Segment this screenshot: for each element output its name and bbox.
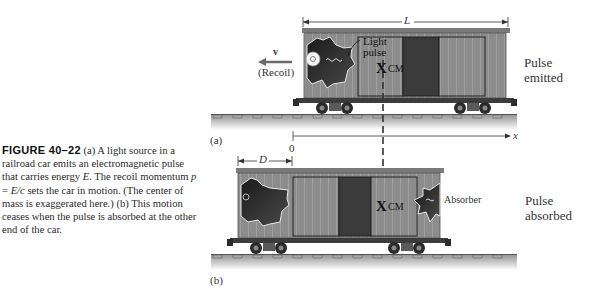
figure-caption: FIGURE 40–22 (a) A light source in a rai… (2, 144, 198, 236)
displacement-label: D (259, 153, 267, 165)
x-axis (293, 131, 511, 141)
cm-marker-b: X (376, 198, 387, 215)
wheel-truck-left (316, 102, 353, 114)
wheel-truck-right-b (388, 242, 425, 254)
pulse-absorbed-label: Pulseabsorbed (525, 193, 572, 223)
wheel-truck-left-b (250, 242, 287, 254)
pulse-emitted-label: Pulseemitted (524, 55, 563, 85)
car-roof (302, 28, 510, 33)
car-door (403, 37, 439, 96)
velocity-label: v (273, 46, 278, 57)
light-source-icon (306, 52, 320, 66)
cm-marker-a: X (376, 60, 387, 77)
recoil-label: (Recoil) (258, 66, 294, 78)
axis-origin-label: 0 (289, 142, 295, 154)
cm-label-a: CM (388, 63, 404, 74)
track-a (211, 114, 517, 130)
track-b (211, 254, 517, 270)
panel-b (211, 155, 517, 270)
figure-number: FIGURE 40–22 (2, 144, 81, 156)
panel-b-label: (b) (210, 274, 223, 286)
cm-label-b: CM (388, 201, 404, 212)
wheel-truck-right (454, 102, 491, 114)
recoil-velocity-arrow (258, 58, 292, 66)
length-label: L (404, 14, 410, 26)
axis-x-label: x (513, 129, 518, 141)
light-pulse-label: Lightpulse (363, 36, 387, 58)
panel-a-label: (a) (210, 134, 222, 146)
car-underframe (296, 98, 514, 103)
absorber-label: Absorber (444, 194, 481, 205)
